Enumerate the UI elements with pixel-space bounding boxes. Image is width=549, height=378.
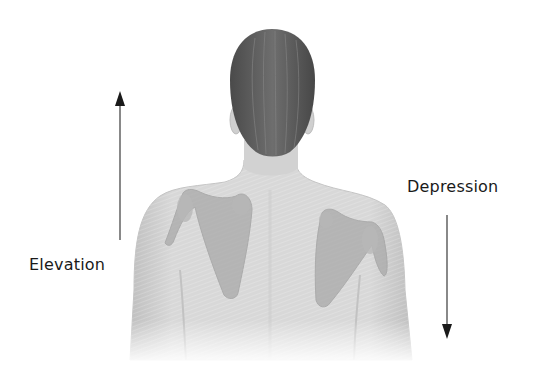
elevation-arrow-icon <box>115 91 125 240</box>
depression-label: Depression <box>407 177 498 196</box>
scapula-movement-diagram: Elevation Depression <box>0 0 549 378</box>
elevation-label: Elevation <box>29 255 105 274</box>
head <box>230 29 315 157</box>
depression-arrow-icon <box>442 215 452 339</box>
torso <box>120 160 420 365</box>
